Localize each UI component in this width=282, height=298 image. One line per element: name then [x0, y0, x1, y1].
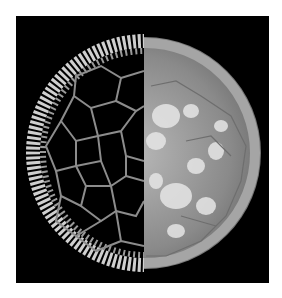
- image-frame: [16, 16, 269, 283]
- cross-section-image: [16, 16, 269, 283]
